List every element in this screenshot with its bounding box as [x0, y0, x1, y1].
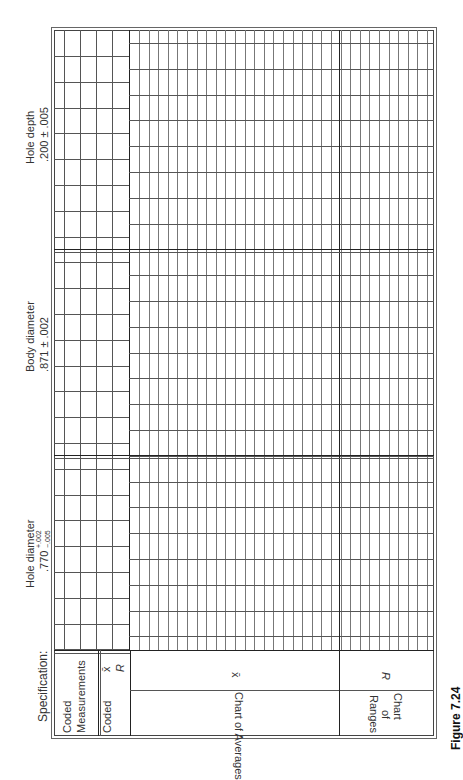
averages-symbol: x̄: [230, 672, 242, 678]
chart-row-line: [129, 611, 434, 612]
chart-row-line: [129, 404, 434, 405]
measurement-row-line: [54, 340, 129, 341]
chart-col-line: [225, 30, 226, 650]
averages-ranges-divider: [339, 30, 340, 736]
measurement-row-line: [54, 572, 129, 573]
band-label-divider: [130, 690, 434, 691]
section-divider-1b: [54, 252, 434, 253]
hole-depth-spec: .200 ± .005: [38, 107, 50, 162]
hole-diameter-nominal: .770: [38, 551, 50, 572]
body-diameter-label: Body diameter: [24, 301, 36, 372]
chart-col-line: [264, 30, 265, 650]
chart-col-line: [283, 30, 284, 650]
coded-measurements-line1: Coded: [61, 701, 73, 733]
form-inner-border: [54, 30, 434, 736]
chart-col-line: [321, 30, 322, 650]
section-divider-2b: [54, 458, 434, 459]
chart-row-line: [129, 172, 434, 173]
measurement-row-line: [54, 262, 129, 263]
band-col-divider-2: [130, 650, 131, 736]
measurement-row-line: [54, 443, 129, 444]
chart-row-line: [129, 482, 434, 483]
chart-row-line: [129, 224, 434, 225]
measurement-row-line: [54, 495, 129, 496]
measurement-row-line: [54, 185, 129, 186]
chart-row-line: [129, 95, 434, 96]
measurement-row-line: [54, 417, 129, 418]
measurement-row-line: [54, 366, 129, 367]
measurement-chart-divider: [129, 30, 130, 650]
chart-row-line: [129, 559, 434, 560]
coded-xbar-symbol: x̄: [100, 667, 112, 673]
measurement-row-line: [54, 108, 129, 109]
hole-diameter-upper-tol: +.002: [35, 530, 42, 548]
specification-label: Specification:: [36, 651, 50, 722]
chart-row-line: [129, 301, 434, 302]
chart-row-line: [129, 275, 434, 276]
band-top-divider-2: [54, 653, 130, 654]
ranges-label-line3: Ranges: [368, 695, 380, 733]
coded-label: Coded: [101, 701, 113, 733]
measurement-row-line: [54, 520, 129, 521]
ranges-symbol: R: [380, 672, 392, 680]
band-top-divider: [54, 650, 434, 651]
chart-col-line: [235, 30, 236, 650]
chart-row-line: [129, 456, 434, 457]
chart-col-line: [187, 30, 188, 650]
chart-col-line: [158, 30, 159, 650]
measurement-row-line: [54, 237, 129, 238]
measurement-row-line: [54, 469, 129, 470]
chart-row-line: [129, 585, 434, 586]
chart-col-line: [216, 30, 217, 650]
chart-col-line: [379, 30, 380, 650]
chart-of-averages-label: Chart of Averages: [233, 692, 245, 780]
chart-col-line: [206, 30, 207, 650]
chart-row-line: [129, 120, 434, 121]
measurement-row-line: [54, 391, 129, 392]
figure-caption: Figure 7.24: [449, 687, 463, 750]
chart-col-line: [168, 30, 169, 650]
chart-col-line: [293, 30, 294, 650]
section-divider-1: [54, 249, 434, 250]
chart-col-line: [398, 30, 399, 650]
chart-col-line: [350, 30, 351, 650]
chart-col-line: [369, 30, 370, 650]
chart-row-line: [129, 43, 434, 44]
measurement-row-line: [54, 133, 129, 134]
chart-row-line: [129, 69, 434, 70]
measurement-row-line: [54, 56, 129, 57]
chart-row-line: [129, 430, 434, 431]
section-divider-2: [54, 455, 434, 456]
coded-measurements-line2: Measurements: [75, 660, 87, 733]
measurement-row-line: [54, 288, 129, 289]
chart-col-line: [139, 30, 140, 650]
chart-row-line: [129, 327, 434, 328]
measurement-row-line: [54, 159, 129, 160]
chart-row-line: [129, 198, 434, 199]
coded-r-symbol: R: [114, 664, 126, 672]
measurement-row-line: [54, 314, 129, 315]
chart-col-line: [312, 30, 313, 650]
band-col-divider-1: [98, 650, 99, 736]
hole-diameter-lower-tol: −.005: [44, 530, 51, 548]
measurement-row-line: [54, 82, 129, 83]
chart-col-line: [427, 30, 428, 650]
chart-row-line: [129, 636, 434, 637]
ranges-label-line1: Chart: [392, 693, 404, 720]
measurement-row-line: [54, 546, 129, 547]
chart-col-line: [302, 30, 303, 650]
chart-col-line: [177, 30, 178, 650]
hole-depth-label: Hole depth: [24, 111, 36, 164]
body-diameter-spec: .871 ± .002: [38, 317, 50, 372]
chart-col-line: [273, 30, 274, 650]
chart-col-line: [360, 30, 361, 650]
chart-col-line: [408, 30, 409, 650]
chart-col-line: [331, 30, 332, 650]
ranges-label-line2: of: [380, 710, 392, 719]
chart-row-line: [129, 146, 434, 147]
chart-col-line: [417, 30, 418, 650]
chart-col-line: [341, 30, 342, 650]
chart-col-line: [389, 30, 390, 650]
chart-col-line: [254, 30, 255, 650]
measurement-row-line: [54, 211, 129, 212]
